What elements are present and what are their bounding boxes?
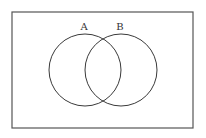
venn-svg: A B	[0, 0, 206, 138]
universal-set-rectangle	[12, 12, 193, 128]
venn-diagram: A B	[0, 0, 206, 138]
set-a-label: A	[79, 21, 88, 32]
set-b-label: B	[116, 21, 123, 32]
